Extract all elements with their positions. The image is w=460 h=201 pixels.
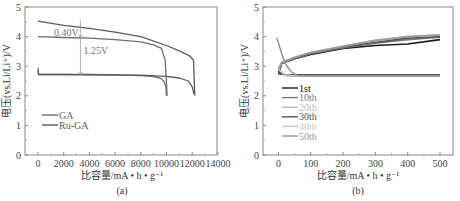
x-tick-label: 14000 [205,158,230,169]
y-tick-label: 1 [16,120,21,131]
chart-b-ylabel: 电压(vs.Li/Li⁺)/V [238,43,251,118]
annotation-label: 0.40V [54,27,80,38]
y-tick-label: 0 [254,150,259,161]
x-tick-label: 2000 [54,158,74,169]
x-tick-label: 10000 [154,158,179,169]
x-tick-label: 8000 [131,158,151,169]
chart-a-legend: GARu-GA [42,110,89,131]
chart-b-frame [263,7,453,155]
x-tick-label: 0 [276,158,281,169]
chart-a: 01234502000400060008000100001200014000 0… [0,2,230,198]
x-tick-label: 6000 [105,158,125,169]
chart-b-caption: (b) [352,185,364,197]
x-tick-label: 400 [400,158,415,169]
series-40th-charge [279,35,441,69]
chart-b-legend: 1st10th20th30th40th50th [282,83,317,142]
chart-a-caption: (a) [116,185,127,197]
x-tick-label: 0 [36,158,41,169]
y-tick-label: 3 [254,61,259,72]
y-tick-label: 0 [16,150,21,161]
chart-b-ticks: 0123450100200300400500 [254,2,448,170]
y-tick-label: 4 [16,31,21,42]
figure: 01234502000400060008000100001200014000 0… [0,0,460,201]
x-tick-label: 100 [303,158,318,169]
chart-a-annotations: 0.40V1.25V [54,20,109,75]
y-tick-label: 4 [254,31,259,42]
chart-a-xlabel: 比容量/mA • h • g⁻¹ [81,169,164,181]
chart-a-ticks: 01234502000400060008000100001200014000 [16,2,230,170]
annotation-label: 1.25V [83,45,109,56]
x-tick-label: 200 [336,158,351,169]
chart-b-xlabel: 比容量/mA • h • g⁻¹ [317,169,400,181]
x-tick-label: 12000 [180,158,205,169]
x-tick-label: 300 [368,158,383,169]
chart-a-ylabel: 电压(vs.Li/Li⁺)/V [0,43,13,118]
legend-label: 50th [299,131,317,142]
legend-label: Ru-GA [59,120,89,131]
x-tick-label: 500 [433,158,448,169]
x-tick-label: 4000 [79,158,99,169]
y-tick-label: 2 [16,90,21,101]
y-tick-label: 5 [254,2,259,13]
chart-b: 0123450100200300400500 1st10th20th30th40… [238,2,453,198]
series-1st-discharge [279,74,441,76]
series-20th-charge [279,36,441,71]
series-ru-ga-discharge [38,71,194,95]
series-ga-discharge [38,68,167,96]
chart-b-series [277,35,440,77]
y-tick-label: 5 [16,2,21,13]
y-tick-label: 1 [254,120,259,131]
series-50th-charge [279,35,441,69]
y-tick-label: 3 [16,61,21,72]
y-tick-label: 2 [254,90,259,101]
